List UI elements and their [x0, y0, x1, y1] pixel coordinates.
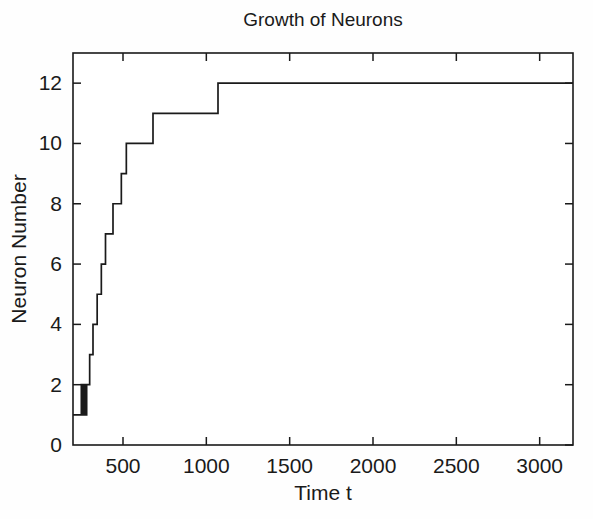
x-tick-label-1500: 1500 [266, 454, 313, 477]
y-tick-label-8: 8 [50, 192, 62, 215]
y-tick-label-6: 6 [50, 252, 62, 275]
x-tick-label-2000: 2000 [350, 454, 397, 477]
plot-area-background [73, 53, 573, 445]
x-tick-labels-group: 50010001500200025003000 [105, 454, 563, 477]
neuron-growth-chart: Growth of Neurons 5001000150020002500300… [0, 0, 593, 519]
x-tick-label-1000: 1000 [183, 454, 230, 477]
x-tick-label-2500: 2500 [433, 454, 480, 477]
y-tick-label-12: 12 [39, 71, 62, 94]
x-tick-label-500: 500 [105, 454, 140, 477]
y-axis-title: Neuron Number [7, 174, 30, 323]
figure-container: Growth of Neurons 5001000150020002500300… [0, 0, 593, 519]
y-tick-label-0: 0 [50, 433, 62, 456]
x-axis-title: Time t [294, 481, 352, 504]
x-tick-label-3000: 3000 [516, 454, 563, 477]
y-tick-label-10: 10 [39, 131, 62, 154]
y-tick-label-2: 2 [50, 373, 62, 396]
y-tick-label-4: 4 [50, 312, 62, 335]
y-tick-labels-group: 024681012 [39, 71, 63, 456]
chart-title: Growth of Neurons [243, 9, 402, 30]
